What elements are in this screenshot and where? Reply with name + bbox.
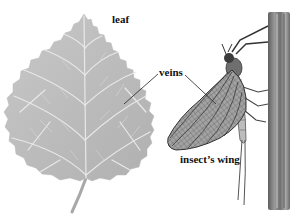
illustration <box>0 0 296 221</box>
leaf-illustration <box>4 14 154 212</box>
plant-stem-illustration <box>268 12 290 210</box>
label-leaf: leaf <box>112 14 129 25</box>
figure: leaf veins insect’s wing <box>0 0 296 221</box>
label-veins: veins <box>159 67 183 78</box>
insect-illustration <box>168 26 268 205</box>
insect-wing <box>168 70 247 150</box>
label-insect-wing: insect’s wing <box>180 154 240 165</box>
